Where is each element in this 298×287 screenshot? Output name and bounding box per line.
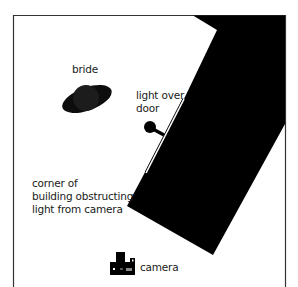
corner-label-line2: building obstructing [32, 190, 133, 203]
camera-icon [110, 252, 135, 275]
bride-label: bride [72, 63, 98, 76]
corner-label-line1: corner of [32, 177, 77, 190]
corner-label-line3: light from camera [32, 203, 123, 216]
building-shape [127, 16, 285, 256]
light-label-line1: light over [136, 89, 184, 102]
camera-label: camera [140, 261, 178, 274]
bride-icon [59, 79, 116, 118]
light-label-line2: door [136, 102, 159, 115]
diagram-canvas [0, 0, 298, 287]
light-icon [144, 121, 164, 135]
lighting-diagram: bride light over door corner of building… [0, 0, 298, 287]
